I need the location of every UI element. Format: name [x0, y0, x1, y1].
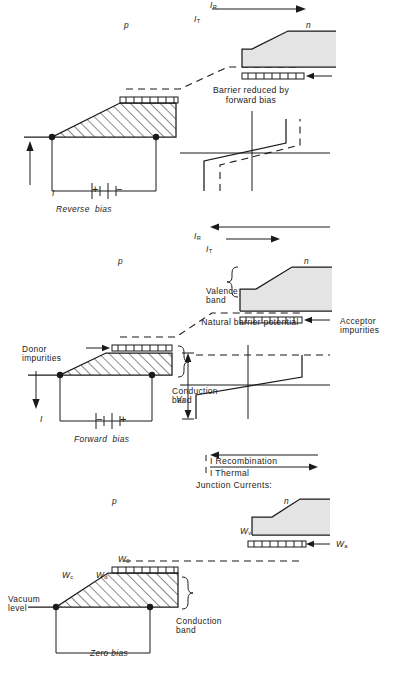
zero-bias-potential-plot [0, 464, 415, 695]
n-region-label: n [306, 21, 311, 30]
panel-zero-bias: Zero bias Conduction band Vacuum level W… [0, 464, 415, 695]
valence-band-region [242, 31, 336, 67]
reverse-bias-label: Reverse bias [56, 205, 112, 214]
acceptor-impurities-label: Acceptor impurities [340, 317, 379, 336]
battery-terminal-minus: − [116, 183, 123, 195]
figure-canvas: Zero bias Conduction band Vacuum level W… [0, 0, 415, 695]
forward-current-label: I [40, 415, 43, 424]
panel-forward-bias-graphics [0, 232, 415, 463]
panel-reverse-bias: Reverse bias + − I n p IT IR Barrier inc… [0, 0, 415, 231]
forward-bias-battery [57, 372, 155, 429]
reverse-current-label: I [52, 189, 55, 198]
battery-terminal-plus: + [92, 183, 99, 195]
donor-level [112, 345, 172, 351]
donor-level [120, 97, 178, 103]
i-thermal-label: IT [194, 15, 201, 25]
panel-reverse-bias-graphics [0, 0, 415, 231]
p-region-label: p [124, 21, 129, 30]
conduction-band-label: Conduction band [172, 387, 218, 406]
acceptor-level [242, 73, 304, 79]
acceptor-impurities-arrow [306, 73, 332, 79]
battery-terminal-plus: + [120, 413, 127, 425]
figure-root: Zero bias Conduction band Vacuum level W… [0, 0, 415, 695]
valence-band-label: Valence band [206, 287, 238, 306]
fermi-level-line [126, 67, 300, 89]
reverse-current-arrow [26, 141, 33, 185]
battery-terminal-minus: − [96, 413, 103, 425]
i-thermal-label: IT [206, 245, 213, 255]
valence-band-region [240, 267, 332, 311]
p-region-label: p [118, 257, 123, 266]
conduction-band-bracket [178, 346, 189, 377]
forward-bias-label: Forward bias [74, 435, 129, 444]
i-recombination-label: IR [210, 1, 217, 11]
donor-impurities-arrow [86, 345, 110, 351]
n-region-label: n [304, 257, 309, 266]
reverse-current-pair [212, 0, 306, 13]
panel-forward-bias: Forward bias − + I Conduction band Donor… [0, 232, 415, 463]
acceptor-impurities-arrow [304, 317, 330, 323]
i-recombination-label: IR [194, 232, 201, 242]
forward-current-arrow [32, 371, 39, 409]
conduction-band-region [24, 103, 176, 137]
acceptor-level [240, 317, 302, 323]
reverse-bias-battery [49, 134, 159, 199]
donor-impurities-label: Donor impurities [22, 345, 61, 364]
